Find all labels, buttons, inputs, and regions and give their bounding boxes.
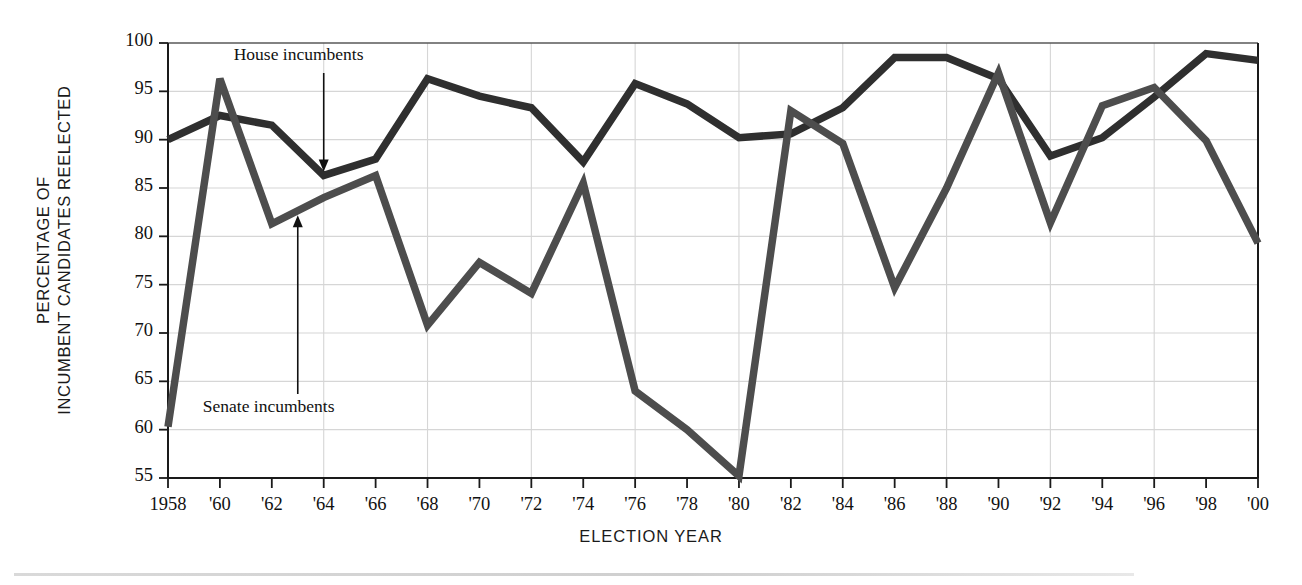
y-tick-label: 75 [107,272,153,293]
y-tick-label: 95 [107,78,153,99]
x-tick-label: '68 [417,494,439,515]
x-tick-label: '84 [832,494,854,515]
x-tick-label: '74 [572,494,594,515]
x-tick-label: '82 [780,494,802,515]
y-tick-label: 55 [107,465,153,486]
x-tick-label: '86 [884,494,906,515]
y-tick-label: 85 [107,175,153,196]
y-tick-label: 60 [107,417,153,438]
annotation-label-senate: Senate incumbents [203,396,335,417]
x-tick-label: '90 [988,494,1010,515]
x-tick-label: '64 [313,494,335,515]
x-tick-label: '80 [728,494,750,515]
annotation-label-house: House incumbents [234,44,364,65]
y-tick-label: 90 [107,127,153,148]
x-tick-label: '66 [365,494,387,515]
x-tick-label: '88 [936,494,958,515]
footer-rule [14,573,1134,576]
x-axis-title: ELECTION YEAR [0,527,1302,546]
x-tick-label: '72 [520,494,542,515]
x-tick-label: '76 [624,494,646,515]
x-tick-label: '78 [676,494,698,515]
y-tick-label: 100 [107,30,153,51]
chart-figure: PERCENTAGE OF INCUMBENT CANDIDATES REELE… [0,0,1302,585]
x-tick-label: '98 [1195,494,1217,515]
x-tick-label: '62 [261,494,283,515]
x-tick-label: '60 [209,494,231,515]
x-tick-label: '70 [469,494,491,515]
y-tick-label: 65 [107,368,153,389]
y-tick-label: 70 [107,320,153,341]
x-tick-label: '94 [1091,494,1113,515]
x-tick-label: '00 [1247,494,1269,515]
senate-annotation-arrow-head [293,215,303,227]
x-tick-label: '92 [1039,494,1061,515]
x-tick-label: 1958 [150,494,187,515]
y-tick-label: 80 [107,223,153,244]
x-tick-label: '96 [1143,494,1165,515]
